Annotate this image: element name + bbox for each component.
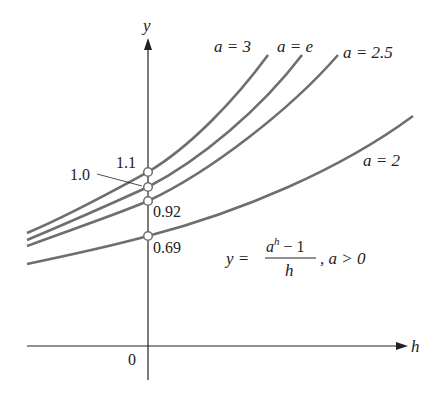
chart: y h 0 1.1 1.0 0.92 0.69 a = 3 a = e a = …: [0, 0, 435, 394]
x-axis-arrow-icon: [396, 342, 408, 350]
series-label-a-2: a = 2: [363, 151, 400, 170]
x-axis-label: h: [411, 337, 420, 356]
intercept-label-0-69: 0.69: [153, 239, 181, 256]
axes: [27, 38, 408, 380]
intercept-label-1-1: 1.1: [116, 154, 136, 171]
y-axis-label: y: [141, 16, 151, 35]
series-label-a-3: a = 3: [214, 37, 251, 56]
intercept-label-0-92: 0.92: [153, 203, 181, 220]
series-label-a-2-5: a = 2.5: [343, 43, 393, 62]
series-label-a-e: a = e: [277, 37, 313, 56]
origin-label: 0: [128, 351, 136, 368]
formula-condition: , a > 0: [320, 249, 366, 268]
hole-a-e: [144, 183, 153, 192]
formula-lhs: y =: [224, 249, 249, 268]
formula-numerator: ah − 1: [266, 235, 305, 255]
hole-a-3: [144, 168, 153, 177]
intercept-label-1-0: 1.0: [70, 166, 90, 183]
formula: y = ah − 1 h , a > 0: [224, 235, 366, 280]
curve-a-2-5: [27, 55, 338, 246]
curves: [27, 55, 413, 264]
y-axis-arrow-icon: [144, 38, 152, 50]
hole-a-2-5: [144, 197, 153, 206]
hole-a-2: [144, 232, 153, 241]
formula-denominator: h: [285, 261, 294, 280]
